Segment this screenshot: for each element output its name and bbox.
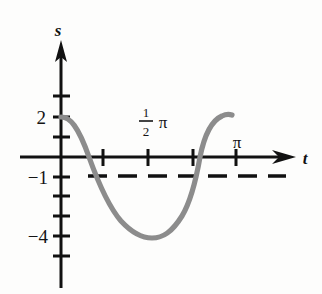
t-tick-label-half-pi: 1 2 π: [139, 105, 168, 139]
half-pi-numerator: 1: [143, 105, 150, 120]
half-pi-symbol: π: [159, 113, 168, 132]
graph-figure: s t 2 −1 −4 1 2 π π: [0, 0, 322, 294]
half-pi-denominator: 2: [143, 124, 150, 139]
s-tick-label-minus-1: −1: [28, 167, 48, 188]
t-tick-label-pi: π: [233, 133, 242, 152]
s-tick-label-minus-4: −4: [28, 226, 49, 247]
coordinate-plot: s t 2 −1 −4 1 2 π π: [0, 0, 322, 294]
s-axis-label: s: [54, 21, 62, 40]
t-axis-label: t: [303, 149, 309, 168]
s-tick-label-2: 2: [37, 107, 47, 128]
